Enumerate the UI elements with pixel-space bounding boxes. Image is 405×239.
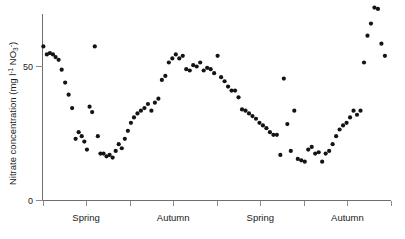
data-point [57, 58, 61, 62]
data-point [306, 147, 310, 151]
data-point [338, 127, 342, 131]
data-point [153, 101, 157, 105]
data-point [177, 56, 181, 60]
data-point [348, 115, 352, 119]
data-point [87, 105, 91, 109]
data-point [383, 54, 387, 58]
data-point [233, 89, 237, 93]
data-point [369, 22, 373, 26]
data-point [355, 113, 359, 117]
data-point [261, 123, 265, 127]
data-point [254, 117, 258, 121]
data-point [212, 71, 216, 75]
y-axis-label-mid: NO [7, 51, 18, 68]
y-tick-label-50: 50 [23, 62, 33, 72]
data-point [362, 60, 366, 64]
data-point [139, 109, 143, 113]
data-point [123, 137, 127, 141]
data-point [247, 111, 251, 115]
data-point [170, 56, 174, 60]
data-point [188, 68, 192, 72]
data-points [41, 5, 387, 163]
data-point [129, 121, 133, 125]
x-axis-category-labels: SpringAutumnSpringAutumn [72, 212, 363, 223]
data-point [219, 75, 223, 79]
x-axis-category-1: Autumn [157, 212, 190, 223]
data-point [202, 68, 206, 72]
data-point [376, 7, 380, 11]
data-point [90, 110, 94, 114]
data-point [63, 80, 67, 84]
data-point [163, 74, 167, 78]
data-point [132, 115, 136, 119]
data-point [209, 67, 213, 71]
data-point [111, 156, 115, 160]
data-point [77, 130, 81, 134]
chart-container: Nitrate concentration (mg l-1 NO3-) 50 0… [0, 0, 405, 239]
data-point [70, 106, 74, 110]
data-point [156, 97, 160, 101]
data-point [167, 60, 171, 64]
data-point [146, 102, 150, 106]
data-point [135, 111, 139, 115]
data-point [117, 142, 121, 146]
data-point [282, 76, 286, 80]
data-point [331, 142, 335, 146]
data-point [67, 93, 71, 97]
data-point [243, 109, 247, 113]
data-point [250, 114, 254, 118]
data-point [344, 121, 348, 125]
svg-text:Nitrate concentration (mg l-1: Nitrate concentration (mg l-1 NO3-) [7, 42, 19, 185]
data-point [195, 64, 199, 68]
data-point [160, 78, 164, 82]
data-point [285, 122, 289, 126]
y-axis-label-end: ) [7, 42, 18, 45]
data-point [379, 42, 383, 46]
x-axis-category-2: Spring [247, 212, 274, 223]
data-point [310, 145, 314, 149]
data-point [226, 85, 230, 89]
y-axis-label: Nitrate concentration (mg l-1 NO3-) [7, 42, 19, 185]
data-point [275, 133, 279, 137]
data-point [289, 149, 293, 153]
data-point [365, 34, 369, 38]
data-point [96, 134, 100, 138]
data-point [60, 68, 64, 72]
data-point [85, 147, 89, 151]
data-point [126, 129, 130, 133]
data-point [292, 109, 296, 113]
data-point [181, 54, 185, 58]
data-point [120, 146, 124, 150]
data-point [93, 44, 97, 48]
scatter-plot: Nitrate concentration (mg l-1 NO3-) 50 0… [0, 0, 405, 239]
y-axis-ticks: 50 0 [23, 62, 43, 206]
data-point [351, 109, 355, 113]
data-point [114, 149, 118, 153]
data-point [303, 160, 307, 164]
data-point [41, 44, 45, 48]
data-point [174, 52, 178, 56]
y-tick-label-0: 0 [28, 196, 33, 206]
data-point [324, 152, 328, 156]
data-point [268, 130, 272, 134]
data-point [341, 123, 345, 127]
data-point [278, 153, 282, 157]
data-point [257, 121, 261, 125]
data-point [80, 134, 84, 138]
data-point [334, 134, 338, 138]
data-point [216, 54, 220, 58]
data-point [149, 109, 153, 113]
axes [43, 14, 392, 201]
data-point [327, 149, 331, 153]
x-axis-category-3: Autumn [331, 212, 364, 223]
data-point [198, 60, 202, 64]
data-point [74, 137, 78, 141]
data-point [142, 106, 146, 110]
data-point [320, 160, 324, 164]
data-point [222, 79, 226, 83]
x-axis-ticks [44, 201, 392, 207]
data-point [236, 95, 240, 99]
y-axis-label-main: Nitrate concentration (mg l [7, 74, 18, 185]
data-point [358, 109, 362, 113]
data-point [317, 150, 321, 154]
